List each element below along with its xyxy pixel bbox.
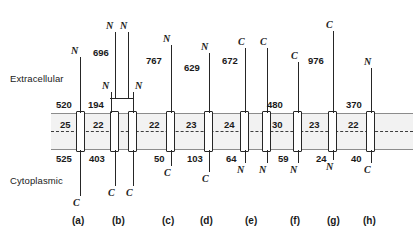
terminus-b-c-2: C xyxy=(126,188,133,198)
terminus-b-n-short-2: N xyxy=(135,81,142,91)
terminus-d-c: C xyxy=(202,174,209,184)
connector-b-loop xyxy=(110,98,133,99)
tail-d-n xyxy=(209,53,210,113)
panel-letter-b: (b) xyxy=(112,216,125,226)
terminus-f-n: N xyxy=(290,165,297,175)
tail-b-stub-1 xyxy=(111,98,112,113)
length-f-cytoplasmic: 59 xyxy=(278,154,289,164)
terminus-h-c: C xyxy=(364,165,371,175)
tail-g-n xyxy=(333,150,334,160)
length-c-tm: 22 xyxy=(149,120,160,130)
tail-b-n-short-1 xyxy=(111,92,112,98)
tail-f-c xyxy=(298,62,299,113)
tail-c-n xyxy=(171,45,172,113)
tail-g-c xyxy=(333,31,334,113)
tail-b-n-long-2 xyxy=(128,32,129,98)
tail-c-c xyxy=(171,150,172,166)
tail-b-n-long-1 xyxy=(115,32,116,98)
terminus-c-c: C xyxy=(164,168,171,178)
length-a-tm: 25 xyxy=(60,120,71,130)
terminus-g-c: C xyxy=(326,20,333,30)
panel-letter-d: (d) xyxy=(200,216,213,226)
helix-b-2 xyxy=(128,111,137,152)
length-e-extracellular: 672 xyxy=(222,56,238,66)
tail-e-c-1 xyxy=(245,48,246,113)
terminus-b-n-long-2: N xyxy=(120,21,127,31)
terminus-e-c-1: C xyxy=(238,37,245,47)
terminus-c-n: N xyxy=(163,34,170,44)
length-b-cytoplasmic: 403 xyxy=(89,154,105,164)
length-e-tm: 24 xyxy=(224,120,235,130)
terminus-e-n-1: N xyxy=(237,165,244,175)
terminus-f-c: C xyxy=(291,51,298,61)
length-a-extracellular: 520 xyxy=(56,100,72,110)
tail-h-c xyxy=(371,150,372,163)
terminus-e-n-2: N xyxy=(259,165,266,175)
panel-letter-c: (c) xyxy=(162,216,174,226)
length-d-extracellular: 629 xyxy=(184,63,200,73)
helix-c-1 xyxy=(166,111,175,152)
terminus-a-n: N xyxy=(71,46,78,56)
tail-a-n xyxy=(80,57,81,113)
length-h-extracellular: 370 xyxy=(346,100,362,110)
tail-e-n-1 xyxy=(245,150,246,163)
tail-a-c xyxy=(80,150,81,196)
length-a-cytoplasmic: 525 xyxy=(56,154,72,164)
helix-b-1 xyxy=(110,111,119,152)
panel-letter-f: (f) xyxy=(290,216,300,226)
tail-b-c-2 xyxy=(133,150,134,186)
membrane-topology-diagram: Extracellular Cytoplasmic N C 520 25 525… xyxy=(0,0,413,241)
cytoplasmic-label: Cytoplasmic xyxy=(10,176,63,186)
helix-g-1 xyxy=(328,111,337,152)
terminus-g-n: N xyxy=(326,162,333,172)
length-f-tm: 30 xyxy=(272,120,283,130)
tail-d-c xyxy=(209,150,210,172)
terminus-h-n: N xyxy=(364,57,371,67)
panel-letter-h: (h) xyxy=(363,216,376,226)
length-b-extracellular-long: 696 xyxy=(93,48,109,58)
helix-e-1 xyxy=(240,111,249,152)
panel-letter-e: (e) xyxy=(245,216,257,226)
helix-h-1 xyxy=(366,111,375,152)
tail-f-n xyxy=(298,150,299,163)
length-c-extracellular: 767 xyxy=(146,56,162,66)
panel-letter-g: (g) xyxy=(327,216,340,226)
length-g-extracellular: 976 xyxy=(308,56,324,66)
length-b-tm: 22 xyxy=(93,120,104,130)
tail-b-stub-2 xyxy=(133,98,134,113)
length-e-cytoplasmic: 64 xyxy=(226,154,237,164)
helix-e-2 xyxy=(262,111,271,152)
panel-letter-a: (a) xyxy=(72,216,84,226)
length-d-cytoplasmic: 103 xyxy=(187,154,203,164)
length-h-tm: 22 xyxy=(348,120,359,130)
tail-h-n xyxy=(371,68,372,113)
helix-d-1 xyxy=(204,111,213,152)
length-d-tm: 23 xyxy=(186,120,197,130)
length-b-extracellular: 194 xyxy=(88,100,104,110)
length-f-extracellular: 480 xyxy=(267,100,283,110)
length-g-cytoplasmic: 24 xyxy=(316,154,327,164)
length-g-tm: 23 xyxy=(309,120,320,130)
tail-b-c-1 xyxy=(115,150,116,186)
terminus-a-c: C xyxy=(73,198,80,208)
length-h-cytoplasmic: 40 xyxy=(351,154,362,164)
length-c-cytoplasmic: 50 xyxy=(154,154,165,164)
tail-e-n-2 xyxy=(267,150,268,163)
tail-b-n-short-2 xyxy=(133,92,134,98)
terminus-e-c-2: C xyxy=(260,37,267,47)
terminus-b-c-1: C xyxy=(108,188,115,198)
bilayer-midline-dashed xyxy=(51,131,413,132)
extracellular-label: Extracellular xyxy=(10,74,64,84)
terminus-b-n-short-1: N xyxy=(102,81,109,91)
helix-f-1 xyxy=(293,111,302,152)
terminus-d-n: N xyxy=(201,42,208,52)
terminus-b-n-long-1: N xyxy=(106,21,113,31)
helix-a-1 xyxy=(76,111,85,152)
